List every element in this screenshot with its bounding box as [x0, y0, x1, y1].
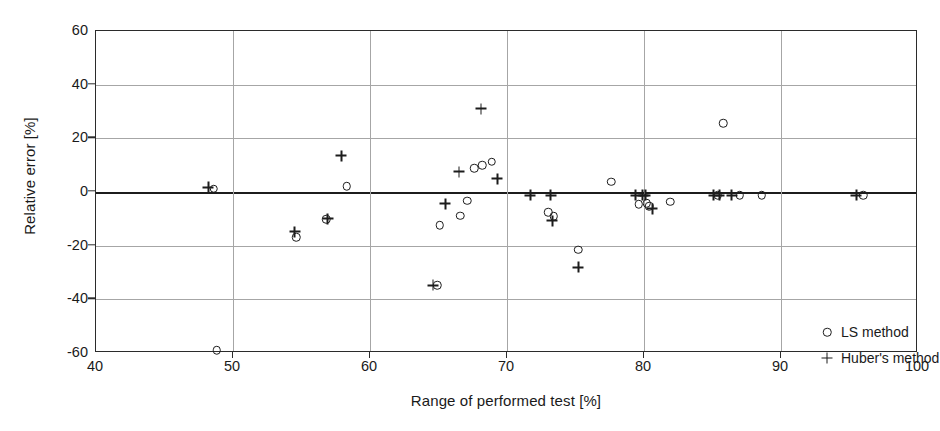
circle-marker — [463, 197, 472, 206]
circle-marker — [645, 202, 654, 211]
circle-marker — [456, 212, 465, 221]
plus-marker — [336, 150, 347, 161]
circle-marker — [292, 233, 301, 242]
plus-marker — [475, 103, 486, 114]
legend-label-ls-method: LS method — [841, 325, 909, 339]
y-tick-label: -40 — [28, 290, 88, 306]
x-tick-label: 70 — [476, 358, 536, 374]
gridline-horizontal — [96, 299, 916, 300]
circle-marker — [212, 346, 221, 355]
circle-marker-icon — [819, 325, 835, 339]
gridline-vertical — [507, 31, 508, 351]
plus-marker — [547, 215, 558, 226]
plus-marker — [573, 262, 584, 273]
x-tick-label: 80 — [613, 358, 673, 374]
plus-marker-icon — [819, 351, 835, 365]
circle-marker — [719, 119, 728, 128]
y-tick-mark — [88, 298, 95, 299]
y-tick-mark — [88, 244, 95, 245]
plus-marker — [454, 166, 465, 177]
plus-marker — [428, 280, 439, 291]
legend-item-ls-method: LS method — [819, 319, 939, 345]
circle-marker — [342, 182, 351, 191]
gridline-vertical — [644, 31, 645, 351]
circle-marker — [607, 177, 616, 186]
circle-marker — [470, 164, 479, 173]
plus-marker — [647, 203, 658, 214]
x-tick-mark — [369, 352, 370, 358]
x-tick-label: 50 — [202, 358, 262, 374]
circle-marker — [433, 281, 442, 290]
circle-marker — [322, 215, 331, 224]
plot-area: LS method Huber's method — [95, 30, 917, 352]
circle-marker — [574, 245, 583, 254]
circle-marker — [544, 208, 553, 217]
x-tick-label: 100 — [887, 358, 940, 374]
x-tick-mark — [780, 352, 781, 358]
y-tick-label: 0 — [28, 183, 88, 199]
circle-marker — [478, 161, 487, 170]
y-tick-label: 40 — [28, 76, 88, 92]
x-tick-mark — [232, 352, 233, 358]
gridline-vertical — [233, 31, 234, 351]
plus-marker — [440, 198, 451, 209]
gridline-horizontal — [96, 138, 916, 139]
y-tick-mark — [88, 137, 95, 138]
circle-marker — [549, 212, 558, 221]
y-tick-mark — [88, 83, 95, 84]
gridline-horizontal — [96, 85, 916, 86]
gridline-horizontal — [96, 246, 916, 247]
gridline-vertical — [781, 31, 782, 351]
x-tick-mark — [643, 352, 644, 358]
x-axis-title: Range of performed test [%] — [95, 392, 917, 409]
x-tick-mark — [506, 352, 507, 358]
scatter-chart-figure: Relative error [%] LS method Huber's met… — [0, 0, 940, 431]
x-tick-label: 90 — [750, 358, 810, 374]
y-tick-label: -20 — [28, 237, 88, 253]
x-tick-label: 40 — [65, 358, 125, 374]
gridline-vertical — [370, 31, 371, 351]
circle-marker — [488, 158, 497, 167]
zero-reference-line — [96, 192, 916, 194]
plus-marker — [322, 213, 333, 224]
plus-marker — [492, 173, 503, 184]
plus-marker — [289, 226, 300, 237]
circle-marker — [666, 197, 675, 206]
y-tick-mark — [88, 190, 95, 191]
x-tick-label: 60 — [339, 358, 399, 374]
y-tick-label: 20 — [28, 129, 88, 145]
y-tick-label: 60 — [28, 22, 88, 38]
circle-marker — [634, 200, 643, 209]
circle-marker — [436, 221, 445, 230]
plus-marker — [203, 182, 214, 193]
